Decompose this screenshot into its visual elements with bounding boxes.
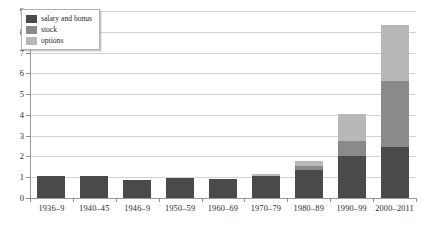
- bar-group: [338, 114, 366, 198]
- bar-group: [209, 179, 237, 198]
- y-axis-tick-label: 0: [0, 194, 24, 203]
- bar-segment: [252, 176, 280, 198]
- x-axis-tick-label: 2000–2011: [375, 204, 414, 213]
- bar-segment: [37, 176, 65, 198]
- legend-swatch-icon: [26, 26, 37, 34]
- bar-segment: [381, 147, 409, 198]
- gridline: [30, 73, 416, 74]
- legend-item-label: options: [41, 37, 63, 45]
- gridline: [30, 94, 416, 95]
- bar-segment: [338, 156, 366, 198]
- figure-caption: [0, 228, 422, 237]
- legend-swatch-icon: [26, 37, 37, 45]
- x-axis-tick: [202, 198, 203, 202]
- gridline: [30, 53, 416, 54]
- bar-segment: [123, 180, 151, 198]
- y-axis-tick-label: 6: [0, 69, 24, 78]
- bar-segment: [209, 179, 237, 198]
- x-axis-tick-label: 1946–9: [124, 204, 150, 213]
- x-axis-tick-label: 1950–59: [165, 204, 195, 213]
- bar-group: [381, 25, 409, 198]
- x-axis-tick: [159, 198, 160, 202]
- x-axis-tick-label: 1940–45: [79, 204, 109, 213]
- x-axis-tick: [73, 198, 74, 202]
- y-axis-tick-label: 5: [0, 90, 24, 99]
- legend-swatch-icon: [26, 15, 37, 23]
- x-axis-tick: [30, 198, 31, 202]
- bar-segment: [166, 178, 194, 198]
- y-axis-tick-label: 4: [0, 111, 24, 120]
- x-axis-tick-label: 1970–79: [251, 204, 281, 213]
- bar-segment: [295, 170, 323, 198]
- legend-item-label: stock: [41, 26, 57, 34]
- bar-group: [252, 174, 280, 198]
- legend-item: stock: [26, 24, 95, 35]
- bar-group: [295, 161, 323, 198]
- bar-segment: [381, 25, 409, 81]
- x-axis-tick: [330, 198, 331, 202]
- chart-legend: salary and bonusstockoptions: [21, 9, 100, 50]
- x-axis-tick-label: 1960–69: [208, 204, 238, 213]
- x-axis-tick: [287, 198, 288, 202]
- bar-segment: [381, 81, 409, 147]
- legend-item-label: salary and bonus: [41, 15, 92, 23]
- bar-segment: [338, 141, 366, 157]
- x-axis-line: [30, 198, 416, 199]
- y-axis-tick-label: 1: [0, 173, 24, 182]
- bar-group: [37, 176, 65, 198]
- bar-group: [80, 176, 108, 198]
- bar-segment: [80, 176, 108, 198]
- y-axis-tick-label: 2: [0, 152, 24, 161]
- chart-container: 0123456789 1936–91940–451946–91950–59196…: [0, 0, 422, 237]
- x-axis-tick: [116, 198, 117, 202]
- x-axis-tick: [416, 198, 417, 202]
- y-axis-tick-label: 3: [0, 131, 24, 140]
- x-axis-tick: [373, 198, 374, 202]
- x-axis-tick: [244, 198, 245, 202]
- x-axis-tick-label: 1990–99: [336, 204, 366, 213]
- bar-segment: [338, 114, 366, 141]
- x-axis-tick-label: 1980–89: [294, 204, 324, 213]
- legend-item: salary and bonus: [26, 13, 95, 24]
- legend-item: options: [26, 35, 95, 46]
- x-axis-tick-label: 1936–9: [38, 204, 64, 213]
- bar-group: [123, 180, 151, 198]
- bar-group: [166, 178, 194, 198]
